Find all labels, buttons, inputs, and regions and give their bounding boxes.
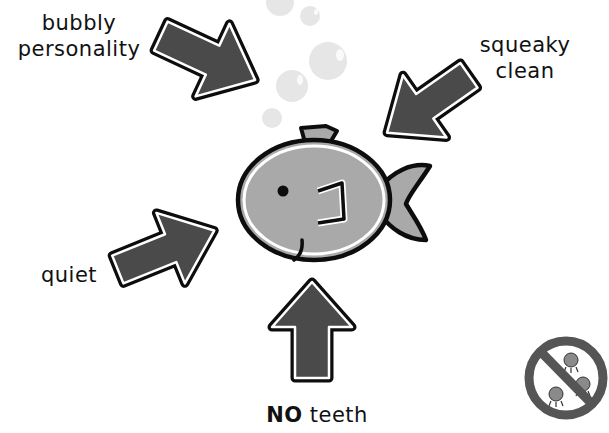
label-strong: NO xyxy=(266,403,302,427)
bubble-icon xyxy=(262,108,282,128)
label-line: quiet xyxy=(41,263,97,287)
fish-icon xyxy=(238,126,430,260)
bubbles xyxy=(262,0,347,128)
label-line: personality xyxy=(14,36,144,62)
label-no-teeth: NO teeth xyxy=(262,402,372,428)
label-squeaky-clean: squeaky clean xyxy=(470,32,580,84)
label-line: clean xyxy=(470,58,580,84)
label-line: squeaky xyxy=(470,32,580,58)
eye-icon xyxy=(278,186,289,197)
label-line: bubbly xyxy=(14,10,144,36)
label-quiet: quiet xyxy=(34,262,104,288)
arrow-icon xyxy=(144,0,272,116)
label-line: teeth xyxy=(303,403,368,427)
bubble-icon xyxy=(276,70,308,102)
bubble-icon xyxy=(266,0,294,16)
arrow-icon xyxy=(104,195,229,304)
no-germs-icon xyxy=(529,341,603,415)
bubble-icon xyxy=(300,6,320,26)
bubble-icon xyxy=(309,42,347,80)
label-bubbly-personality: bubbly personality xyxy=(14,10,144,62)
arrow-icon xyxy=(272,282,352,378)
